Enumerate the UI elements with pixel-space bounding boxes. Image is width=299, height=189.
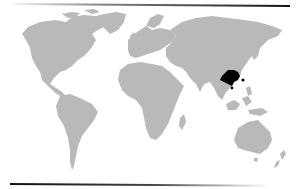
south-america [56, 94, 98, 170]
tasmania [254, 158, 258, 162]
scandinavia [146, 14, 164, 28]
africa [118, 62, 184, 140]
north-america [22, 14, 112, 90]
southeast-asia-islands [226, 86, 268, 116]
greenland [100, 12, 126, 34]
madagascar [179, 114, 186, 130]
asia [166, 16, 282, 100]
map-figure: World map highlighting Southern China re… [0, 0, 299, 189]
new-zealand [274, 150, 286, 168]
world-map [0, 0, 299, 189]
australia [234, 120, 272, 154]
highlighted-region-taiwan [241, 78, 244, 81]
central-america [50, 84, 66, 96]
highlighted-region-hainan [231, 87, 234, 90]
